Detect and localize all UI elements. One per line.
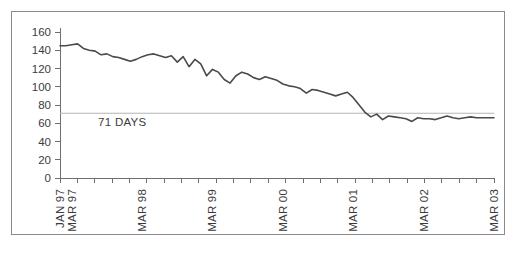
data-series-days bbox=[60, 44, 494, 122]
x-tick-label: MAR 99 bbox=[206, 189, 218, 232]
y-tick-label: 140 bbox=[32, 44, 51, 56]
x-tick-label: MAR 02 bbox=[418, 189, 430, 232]
y-tick-label: 120 bbox=[32, 63, 51, 75]
x-tick-label: MAR 97 bbox=[66, 189, 78, 232]
y-tick-label: 20 bbox=[38, 154, 51, 166]
x-tick-label: JAN 97 bbox=[54, 189, 66, 228]
x-tick-label: MAR 98 bbox=[136, 189, 148, 232]
y-tick-label: 60 bbox=[38, 117, 51, 129]
y-tick-label: 0 bbox=[45, 172, 51, 184]
reference-line-71-days: 71 DAYS bbox=[60, 113, 494, 128]
x-tick-label: MAR 01 bbox=[347, 189, 359, 232]
y-tick-label: 100 bbox=[32, 81, 51, 93]
series-line-days bbox=[60, 44, 494, 122]
chart-frame-border: 020406080100120140160 71 DAYS JAN 97MAR … bbox=[11, 11, 505, 235]
y-tick-label: 160 bbox=[32, 26, 51, 38]
x-axis bbox=[60, 178, 494, 183]
y-tick-label: 80 bbox=[38, 99, 51, 111]
x-tick-label: MAR 00 bbox=[277, 189, 289, 232]
chart-figure: 020406080100120140160 71 DAYS JAN 97MAR … bbox=[0, 0, 532, 253]
x-tick-label: MAR 03 bbox=[488, 189, 500, 232]
y-tick-label: 40 bbox=[38, 136, 51, 148]
line-chart-canvas: 020406080100120140160 71 DAYS JAN 97MAR … bbox=[12, 12, 506, 236]
x-axis-tick-labels: JAN 97MAR 97MAR 98MAR 99MAR 00MAR 01MAR … bbox=[54, 189, 500, 232]
y-axis: 020406080100120140160 bbox=[32, 26, 60, 184]
reference-line-label: 71 DAYS bbox=[98, 116, 147, 128]
